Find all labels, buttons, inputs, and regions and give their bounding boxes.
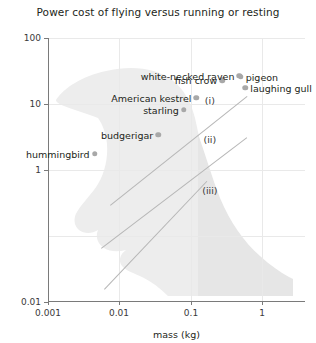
x-tick — [48, 301, 49, 305]
x-tick — [119, 301, 120, 305]
data-point-label: pigeon — [246, 71, 278, 82]
y-tick — [44, 302, 48, 303]
data-point-label: hummingbird — [26, 148, 90, 159]
x-tick-label: 1 — [259, 308, 265, 318]
y-tick — [44, 170, 48, 171]
y-tick — [44, 38, 48, 39]
trend-line-label: (ii) — [204, 133, 217, 144]
gridline-horizontal — [48, 236, 305, 237]
data-point-label: American kestrel — [111, 92, 191, 103]
trend-line-label: (iii) — [202, 184, 217, 195]
x-tick-label: 0.1 — [184, 308, 198, 318]
data-point — [238, 74, 244, 80]
data-point — [181, 107, 187, 113]
gridline-horizontal — [48, 38, 305, 39]
chart-title: Power cost of flying versus running or r… — [0, 6, 316, 18]
y-axis-line — [48, 38, 49, 302]
y-tick-label: 1 — [35, 165, 41, 175]
chart-figure: Power cost of flying versus running or r… — [0, 0, 316, 343]
data-point — [194, 95, 200, 101]
y-tick-label: 0.01 — [21, 297, 41, 307]
x-tick — [191, 301, 192, 305]
y-tick-label: 100 — [24, 33, 41, 43]
y-tick-label: 10 — [30, 99, 41, 109]
trend-line-label: (i) — [205, 94, 215, 105]
x-axis-line — [48, 301, 305, 302]
plot-area: 0.001 0.01 0.1 1 100 10 1 0.01 mass (kg)… — [48, 38, 305, 302]
data-point — [155, 132, 161, 138]
x-axis-title: mass (kg) — [48, 329, 305, 340]
data-point-label: laughing gull — [250, 82, 312, 93]
x-tick-label: 0.001 — [35, 308, 61, 318]
gridline-horizontal — [48, 170, 305, 171]
data-point-label: budgerigar — [101, 129, 153, 140]
y-tick — [44, 104, 48, 105]
data-point-label: starling — [143, 104, 179, 115]
x-tick — [262, 301, 263, 305]
x-tick-label: 0.01 — [109, 308, 129, 318]
data-point-label: white-necked raven — [141, 70, 235, 81]
data-point — [243, 85, 249, 91]
data-point — [92, 151, 98, 157]
